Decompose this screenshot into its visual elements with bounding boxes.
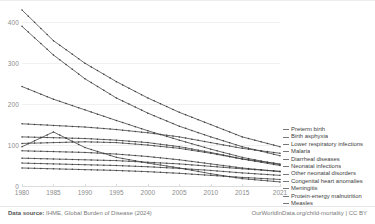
series-marker bbox=[260, 180, 262, 182]
series-marker bbox=[116, 129, 118, 131]
series-marker bbox=[84, 147, 86, 149]
series-marker bbox=[59, 158, 61, 160]
series-marker bbox=[191, 150, 193, 152]
legend-item[interactable]: Malaria bbox=[283, 148, 375, 155]
series-marker bbox=[65, 49, 67, 51]
legend-item[interactable]: Neonatal infections bbox=[283, 163, 375, 170]
x-axis-tick-1985: 1985 bbox=[46, 189, 60, 196]
series-marker bbox=[197, 140, 199, 142]
series-marker bbox=[147, 171, 149, 173]
series-marker bbox=[160, 134, 162, 136]
series-marker bbox=[179, 148, 181, 150]
series-marker bbox=[128, 143, 130, 145]
series-marker bbox=[166, 120, 168, 122]
series-marker bbox=[241, 178, 243, 180]
series-marker bbox=[254, 169, 256, 171]
series-marker bbox=[229, 131, 231, 133]
series-marker bbox=[210, 170, 212, 172]
series-marker bbox=[128, 140, 130, 142]
series-marker bbox=[128, 161, 130, 163]
series-marker bbox=[204, 134, 206, 136]
series-marker bbox=[160, 157, 162, 159]
series-marker bbox=[254, 149, 256, 151]
series-marker bbox=[273, 174, 275, 176]
series-marker bbox=[53, 54, 55, 56]
series-marker bbox=[90, 127, 92, 129]
series-marker bbox=[279, 163, 281, 165]
series-marker bbox=[46, 34, 48, 36]
series-marker bbox=[34, 22, 36, 24]
legend-item[interactable]: Birth asphyxia bbox=[283, 133, 375, 140]
legend-item[interactable]: Preterm birth bbox=[283, 126, 375, 133]
series-marker bbox=[128, 124, 130, 126]
y-axis-tick-300: 300 bbox=[8, 60, 19, 67]
series-marker bbox=[273, 144, 275, 146]
series-marker bbox=[116, 81, 118, 83]
attribution-link[interactable]: OurWorldInData.org/child-mortality | CC … bbox=[252, 210, 367, 216]
series-marker bbox=[273, 170, 275, 172]
legend-item[interactable]: Protein-energy malnutrition bbox=[283, 193, 375, 200]
series-marker bbox=[72, 151, 74, 153]
series-marker bbox=[40, 137, 42, 139]
legend-item[interactable]: Meningitis bbox=[283, 185, 375, 192]
series-marker bbox=[135, 155, 137, 157]
series-marker bbox=[179, 146, 181, 148]
series-marker bbox=[210, 166, 212, 168]
series-marker bbox=[197, 119, 199, 121]
series-marker bbox=[153, 100, 155, 102]
series-marker bbox=[260, 173, 262, 175]
series-marker bbox=[235, 157, 237, 159]
legend-item[interactable]: Diarrheal diseases bbox=[283, 156, 375, 163]
series-marker bbox=[185, 164, 187, 166]
series-marker bbox=[267, 174, 269, 176]
series-marker bbox=[53, 125, 55, 127]
series-marker bbox=[84, 138, 86, 140]
series-marker bbox=[191, 170, 193, 172]
series-marker bbox=[21, 150, 23, 152]
series-marker bbox=[135, 166, 137, 168]
series-marker bbox=[204, 121, 206, 123]
series-marker bbox=[72, 141, 74, 143]
series-marker bbox=[248, 148, 250, 150]
series-marker bbox=[185, 147, 187, 149]
series-marker bbox=[185, 137, 187, 139]
series-marker bbox=[90, 111, 92, 113]
legend-item[interactable]: Lower respiratory infections bbox=[283, 141, 375, 148]
series-marker bbox=[267, 170, 269, 172]
series-marker bbox=[116, 160, 118, 162]
series-marker bbox=[172, 172, 174, 174]
series-marker bbox=[172, 166, 174, 168]
x-axis-tick-1980: 1980 bbox=[15, 189, 29, 196]
series-marker bbox=[135, 170, 137, 172]
series-marker bbox=[241, 136, 243, 138]
series-marker bbox=[103, 142, 105, 144]
series-marker bbox=[116, 120, 118, 122]
series-marker bbox=[204, 172, 206, 174]
x-axis: 198019851990199520002005201020152021 bbox=[22, 186, 280, 202]
series-marker bbox=[141, 161, 143, 163]
legend-item[interactable]: Other neonatal disorders bbox=[283, 170, 375, 177]
series-marker bbox=[109, 160, 111, 162]
series-marker bbox=[160, 172, 162, 174]
series-marker bbox=[128, 103, 130, 105]
series-marker bbox=[34, 142, 36, 144]
series-marker bbox=[46, 168, 48, 170]
legend-item-label: Protein-energy malnutrition bbox=[291, 193, 362, 200]
series-lines bbox=[22, 10, 280, 186]
series-marker bbox=[160, 144, 162, 146]
series-marker bbox=[197, 132, 199, 134]
series-marker bbox=[128, 130, 130, 132]
series-marker bbox=[84, 126, 86, 128]
series-marker bbox=[97, 141, 99, 143]
legend-item[interactable]: Congenital heart anomalies bbox=[283, 178, 375, 185]
series-marker bbox=[166, 106, 168, 108]
series-marker bbox=[90, 164, 92, 166]
series-marker bbox=[172, 135, 174, 137]
series-marker bbox=[197, 171, 199, 173]
series-marker bbox=[248, 168, 250, 170]
series-marker bbox=[160, 118, 162, 120]
series-marker bbox=[267, 143, 269, 145]
series-marker bbox=[116, 142, 118, 144]
legend-dash-icon bbox=[283, 137, 289, 138]
series-marker bbox=[210, 136, 212, 138]
